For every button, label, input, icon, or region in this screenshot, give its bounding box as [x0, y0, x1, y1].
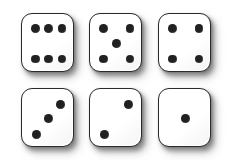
pip: [44, 55, 53, 64]
pip: [126, 24, 135, 33]
pip: [99, 24, 108, 33]
pip: [100, 130, 109, 139]
pip: [195, 24, 204, 33]
pip: [126, 55, 135, 64]
pip: [168, 24, 177, 33]
pip: [58, 55, 67, 64]
pip: [168, 55, 177, 64]
pip: [32, 130, 41, 139]
pip: [44, 24, 53, 33]
pip: [99, 55, 108, 64]
dice-scene: [0, 0, 230, 160]
pip: [56, 100, 65, 109]
pip: [44, 114, 53, 123]
pip: [112, 39, 121, 48]
die-1: [21, 13, 74, 72]
die-3: [158, 13, 211, 72]
pip: [31, 24, 40, 33]
pip: [58, 24, 67, 33]
die-4: [21, 88, 74, 147]
pip: [195, 55, 204, 64]
die-5: [89, 88, 142, 147]
pip: [124, 100, 133, 109]
pip: [31, 55, 40, 64]
pip: [181, 114, 190, 123]
die-2: [89, 13, 142, 72]
die-6: [158, 88, 211, 147]
